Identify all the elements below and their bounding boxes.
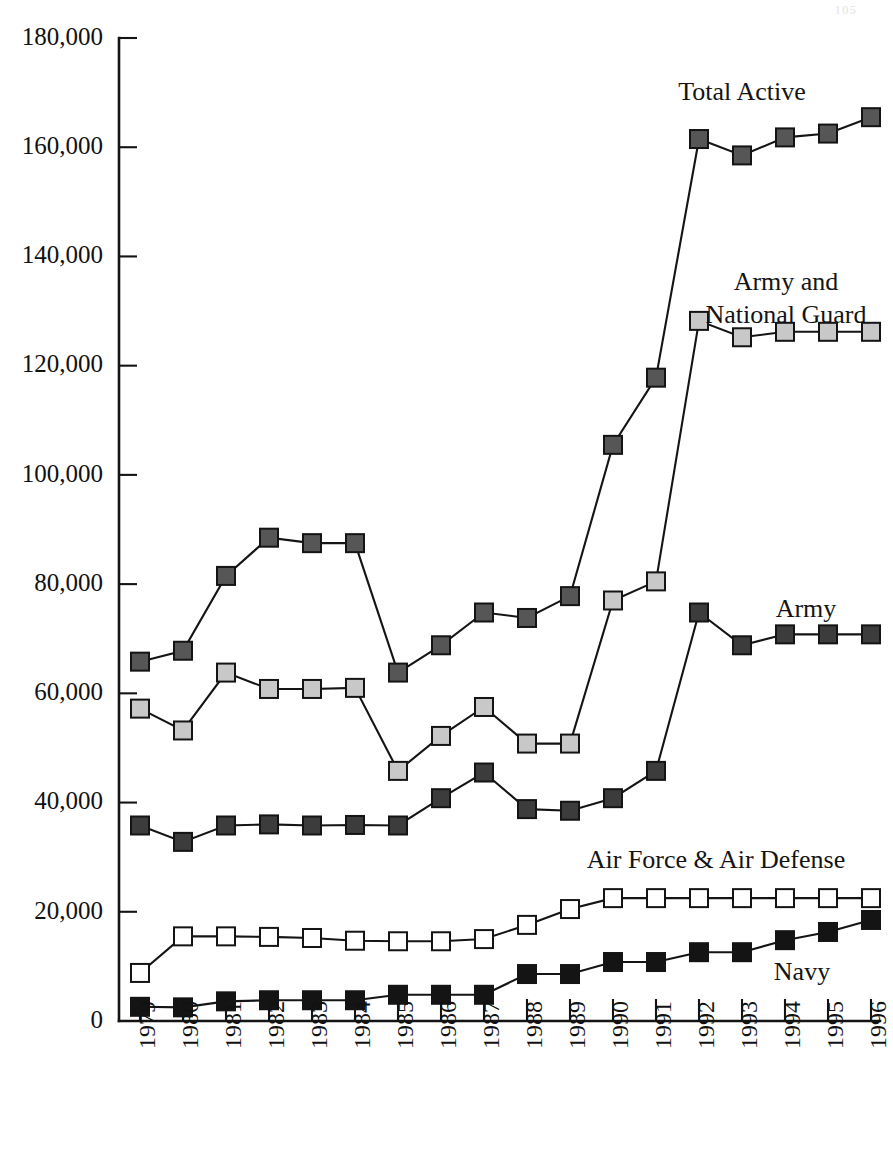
x-axis-tick-label: 1984 [349,1001,375,1049]
data-point-marker [647,762,665,780]
data-point-marker [776,128,794,146]
data-point-marker [432,636,450,654]
data-point-marker [131,700,149,718]
data-point-marker [174,833,192,851]
data-point-marker [518,965,536,983]
data-point-marker [561,965,579,983]
data-point-marker [303,534,321,552]
y-axis-tick-label: 180,000 [22,23,103,50]
line-chart-svg: 020,00040,00060,00080,000100,000120,0001… [0,0,893,1159]
data-point-marker [432,789,450,807]
y-axis-tick-label: 120,000 [22,350,103,377]
y-axis-tick-label: 20,000 [34,897,103,924]
data-point-marker [733,889,751,907]
y-axis-tick-label: 140,000 [22,241,103,268]
x-axis-tick-label: 1993 [736,1001,762,1049]
army-label: Army [776,594,837,623]
series-line-army-and-national-guard [140,321,871,771]
data-point-marker [389,816,407,834]
data-point-marker [647,369,665,387]
data-point-marker [217,567,235,585]
x-axis-tick-label: 1986 [435,1001,461,1049]
data-point-marker [561,900,579,918]
data-point-marker [604,591,622,609]
data-point-marker [733,146,751,164]
data-point-marker [389,664,407,682]
data-point-marker [217,927,235,945]
x-axis-tick-label: 1982 [263,1001,289,1049]
x-axis-tick-label: 1983 [306,1001,332,1049]
data-point-marker [346,932,364,950]
data-point-marker [475,764,493,782]
army-national-guard-label-line1: Army and [734,267,839,296]
y-axis-tick-label: 60,000 [34,678,103,705]
data-point-marker [303,816,321,834]
x-axis-tick-label: 1994 [779,1001,805,1049]
data-point-marker [690,130,708,148]
y-axis-tick-label: 80,000 [34,569,103,596]
data-point-marker [174,927,192,945]
data-point-marker [389,932,407,950]
x-axis-tick-labels: 1979198019811982198319841985198619871988… [134,1001,891,1049]
navy-label: Navy [774,957,830,986]
data-point-marker [432,932,450,950]
x-axis-tick-label: 1981 [220,1001,246,1049]
y-axis-tick-label: 100,000 [22,460,103,487]
data-point-marker [346,816,364,834]
series-line-total-active [140,117,871,672]
data-point-marker [131,964,149,982]
data-point-marker [561,802,579,820]
x-axis-tick-label: 1996 [865,1001,891,1049]
y-axis-tick-labels: 020,00040,00060,00080,000100,000120,0001… [22,23,103,1033]
total-active-label: Total Active [678,77,805,106]
data-point-marker [174,721,192,739]
series-line-air-force-air-defense [140,898,871,973]
data-point-marker [260,680,278,698]
data-point-marker [819,889,837,907]
data-point-marker [819,625,837,643]
data-point-marker [389,762,407,780]
x-axis-tick-label: 1991 [650,1001,676,1049]
data-point-marker [217,816,235,834]
x-axis-tick-label: 1995 [822,1001,848,1049]
data-point-marker [733,943,751,961]
data-point-marker [518,609,536,627]
series-line-army [140,613,871,842]
data-point-marker [819,923,837,941]
data-point-marker [475,604,493,622]
data-point-marker [776,931,794,949]
data-point-marker [174,642,192,660]
data-point-marker [604,953,622,971]
x-axis-tick-label: 1985 [392,1001,418,1049]
data-point-marker [518,735,536,753]
x-axis-tick-label: 1990 [607,1001,633,1049]
data-point-marker [819,125,837,143]
data-point-marker [604,789,622,807]
chart-root: 105 020,00040,00060,00080,000100,000120,… [0,0,893,1159]
data-point-marker [260,928,278,946]
data-point-marker [131,816,149,834]
data-point-marker [217,664,235,682]
data-point-marker [690,943,708,961]
data-point-marker [260,815,278,833]
data-point-marker [862,911,880,929]
data-point-marker [647,889,665,907]
x-axis-tick-label: 1992 [693,1001,719,1049]
data-point-marker [862,108,880,126]
x-axis-tick-label: 1980 [177,1001,203,1049]
data-point-marker [647,572,665,590]
x-axis-tick-label: 1987 [478,1001,504,1049]
x-axis-tick-label: 1989 [564,1001,590,1049]
data-point-marker [131,653,149,671]
series-annotations: Total ActiveArmy andNational GuardArmyAi… [587,77,867,986]
series-markers [131,108,880,1016]
x-axis-tick-label: 1979 [134,1001,160,1049]
y-axis-tick-label: 160,000 [22,132,103,159]
data-point-marker [346,679,364,697]
data-point-marker [475,698,493,716]
data-point-marker [733,636,751,654]
data-point-marker [690,604,708,622]
data-point-marker [303,680,321,698]
data-point-marker [260,529,278,547]
data-point-marker [862,625,880,643]
